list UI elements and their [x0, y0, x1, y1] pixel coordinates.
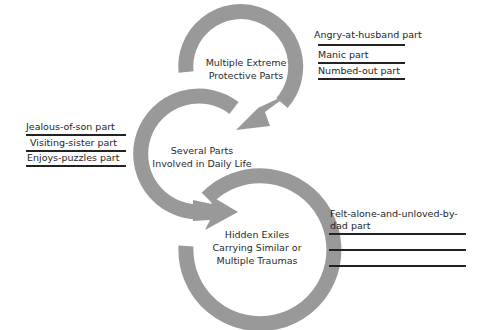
part-numbed-out: Numbed-out part [318, 65, 400, 77]
protectors-title-line2: Protective Parts [196, 69, 296, 82]
daily-life-title-line1: Several Parts [148, 144, 256, 157]
part-manic: Manic part [318, 49, 368, 61]
part-jealous-of-son: Jealous-of-son part [26, 121, 115, 133]
exiles-rule-3 [329, 265, 466, 267]
part-enjoys-puzzles: Enjoys-puzzles part [27, 152, 119, 164]
daily-life-rule-3 [26, 165, 126, 167]
part-visiting-sister: Visiting-sister part [30, 137, 117, 149]
protectors-title-line1: Multiple Extreme [196, 56, 296, 69]
protectors-rule-1 [318, 44, 405, 46]
part-felt-alone-line2: dad part [330, 220, 370, 232]
daily-life-rule-1 [26, 134, 126, 136]
protectors-title: Multiple Extreme Protective Parts [196, 56, 296, 82]
protectors-rule-3 [318, 78, 405, 80]
exiles-title: Hidden Exiles Carrying Similar or Multip… [204, 228, 310, 267]
daily-life-title: Several Parts Involved in Daily Life [148, 144, 256, 170]
part-felt-alone-line1: Felt-alone-and-unloved-by- [330, 208, 458, 220]
exiles-title-line3: Multiple Traumas [204, 254, 310, 267]
exiles-title-line2: Carrying Similar or [204, 241, 310, 254]
exiles-title-line1: Hidden Exiles [204, 228, 310, 241]
exiles-rule-1 [329, 233, 466, 235]
protectors-rule-2 [318, 62, 405, 64]
part-angry-at-husband: Angry-at-husband part [314, 29, 422, 41]
exiles-rule-2 [329, 249, 466, 251]
daily-life-title-line2: Involved in Daily Life [148, 157, 256, 170]
